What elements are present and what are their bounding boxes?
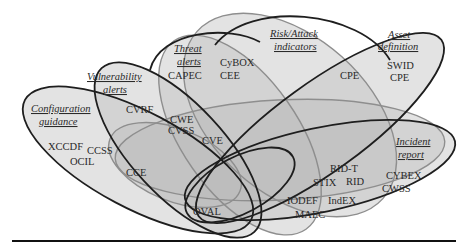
item-cpe-risk: CPE (340, 70, 359, 81)
title-configuration-guidance-2: guidance (39, 116, 78, 127)
item-xccdf: XCCDF (48, 141, 83, 152)
item-iodef: IODEF (287, 195, 318, 206)
item-stix: STIX (313, 177, 337, 188)
item-cvrf: CVRF (126, 104, 154, 115)
item-rid-t: RID-T (330, 163, 359, 174)
item-cvss: CVSS (168, 125, 194, 136)
title-incident-report: Incident (395, 136, 431, 147)
title-configuration-guidance: Configuration (31, 103, 91, 114)
item-cybex: CYBEX (386, 170, 422, 181)
title-threat-alerts: Threat (174, 43, 203, 54)
item-cwe: CWE (170, 114, 193, 125)
title-vulnerability-alerts: Vulnerability (87, 71, 142, 82)
item-rid: RID (346, 176, 365, 187)
title-threat-alerts-2: alerts (177, 56, 201, 67)
item-cce: CCE (126, 167, 146, 178)
title-risk-attack-indicators: Risk/Attack (269, 28, 318, 39)
title-incident-report-2: report (398, 149, 425, 160)
item-capec: CAPEC (168, 70, 202, 81)
item-cpe-asset: CPE (390, 72, 409, 83)
item-cwss: CWSS (382, 183, 411, 194)
item-cee: CEE (220, 70, 240, 81)
item-ccss: CCSS (87, 145, 113, 156)
item-swid: SWID (387, 60, 414, 71)
title-asset-definition-2: definition (378, 41, 418, 52)
item-ocil: OCIL (70, 156, 95, 167)
item-maec: MAEC (295, 209, 325, 220)
title-vulnerability-alerts-2: alerts (103, 84, 127, 95)
item-index: IndEX (328, 195, 356, 206)
item-oval: OVAL (193, 206, 221, 217)
title-asset-definition: Asset (387, 29, 411, 40)
item-cybox: CyBOX (220, 57, 255, 68)
title-risk-attack-indicators-2: indicators (274, 41, 317, 52)
standards-venn-diagram: Configuration guidance Vulnerability ale… (0, 0, 466, 249)
item-cve: CVE (202, 135, 223, 146)
